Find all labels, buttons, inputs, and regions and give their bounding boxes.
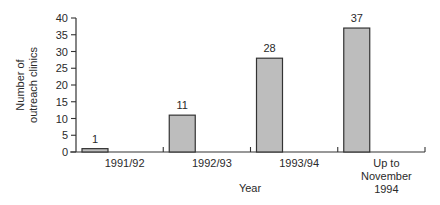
y-tick-label: 35 (56, 29, 68, 41)
y-tick-label: 15 (56, 96, 68, 108)
x-category-label: 1994 (374, 183, 398, 195)
bar-value-label: 1 (92, 133, 98, 145)
bar-value-label: 37 (351, 12, 363, 24)
y-tick-label: 5 (62, 129, 68, 141)
bar (344, 28, 370, 152)
y-tick-label: 0 (62, 146, 68, 158)
y-tick-label: 20 (56, 79, 68, 91)
bar-value-label: 28 (263, 42, 275, 54)
bar (82, 149, 108, 152)
x-axis-title: Year (239, 182, 262, 194)
x-category-label: November (361, 170, 412, 182)
x-category-label: 1993/94 (279, 157, 319, 169)
x-category-label: 1992/93 (192, 157, 232, 169)
bar-chart: 0510152025303540 11991/92111992/93281993… (0, 0, 440, 205)
y-tick-label: 40 (56, 12, 68, 24)
bars (82, 28, 370, 152)
y-tick-label: 30 (56, 46, 68, 58)
x-axis (70, 147, 425, 152)
bar (257, 58, 283, 152)
y-tick-label: 25 (56, 62, 68, 74)
bar (169, 115, 195, 152)
y-axis: 0510152025303540 (56, 12, 76, 158)
bar-value-label: 11 (177, 99, 188, 111)
y-axis-title-line-1: Number of (14, 58, 26, 110)
y-axis-title-line-2: outreach clinics (27, 47, 39, 123)
x-category-label: Up to (373, 157, 399, 169)
y-tick-label: 10 (56, 113, 68, 125)
x-category-label: 1991/92 (105, 157, 145, 169)
